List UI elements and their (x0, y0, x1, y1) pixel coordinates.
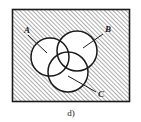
set-label-a: A (23, 25, 30, 35)
hatched-region (12, 9, 130, 102)
venn-diagram-canvas: A B C d) (0, 0, 141, 122)
set-label-b: B (104, 24, 111, 34)
venn-diagram-figure: A B C d) (0, 0, 141, 122)
figure-caption: d) (67, 108, 75, 118)
set-label-c: C (98, 89, 105, 99)
